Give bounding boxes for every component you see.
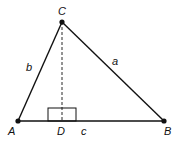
label-side-b: b (26, 61, 32, 73)
vertex-a-dot (15, 118, 20, 123)
vertex-b-dot (161, 118, 166, 123)
vertex-c-dot (59, 19, 64, 24)
side-b (18, 22, 62, 121)
label-side-a: a (112, 55, 118, 67)
label-side-c: c (81, 125, 87, 137)
label-a-vertex: A (7, 125, 15, 137)
label-c-vertex: C (58, 5, 66, 17)
side-a (62, 22, 164, 121)
label-b-vertex: B (164, 125, 171, 137)
triangle-diagram: C A B D b a c (0, 0, 182, 143)
label-d-point: D (57, 125, 65, 137)
